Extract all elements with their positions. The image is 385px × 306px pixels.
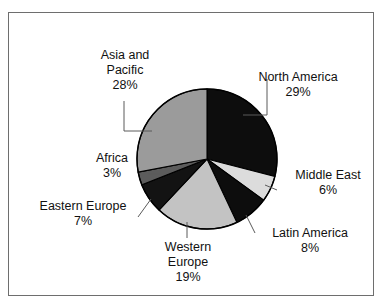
label-middle-east-name: Middle East [280,168,376,183]
label-middle-east-value: 6% [280,183,376,198]
pie-chart-screenshot: North America 29% Asia and Pacific 28% A… [0,0,385,306]
label-middle-east: Middle East 6% [280,168,376,198]
label-north-america-value: 29% [238,85,358,100]
label-western-europe: Western Europe 19% [143,240,233,285]
label-latin-america-value: 8% [258,241,362,256]
label-asia-and-pacific-name-1: Asia and [75,48,175,63]
label-asia-and-pacific-value: 28% [75,78,175,93]
label-eastern-europe-value: 7% [24,214,142,229]
label-latin-america: Latin America 8% [258,226,362,256]
label-western-europe-value: 19% [143,270,233,285]
label-eastern-europe: Eastern Europe 7% [24,199,142,229]
label-north-america-name: North America [238,70,358,85]
label-africa: Africa 3% [78,151,146,181]
pie-slices [137,89,277,229]
label-africa-name: Africa [78,151,146,166]
label-north-america: North America 29% [238,70,358,100]
label-asia-and-pacific-name-2: Pacific [75,63,175,78]
leader-line-latin-america [246,215,255,233]
label-asia-and-pacific: Asia and Pacific 28% [75,48,175,93]
label-africa-value: 3% [78,166,146,181]
label-western-europe-name-2: Europe [143,255,233,270]
label-eastern-europe-name: Eastern Europe [24,199,142,214]
label-western-europe-name-1: Western [143,240,233,255]
label-latin-america-name: Latin America [258,226,362,241]
